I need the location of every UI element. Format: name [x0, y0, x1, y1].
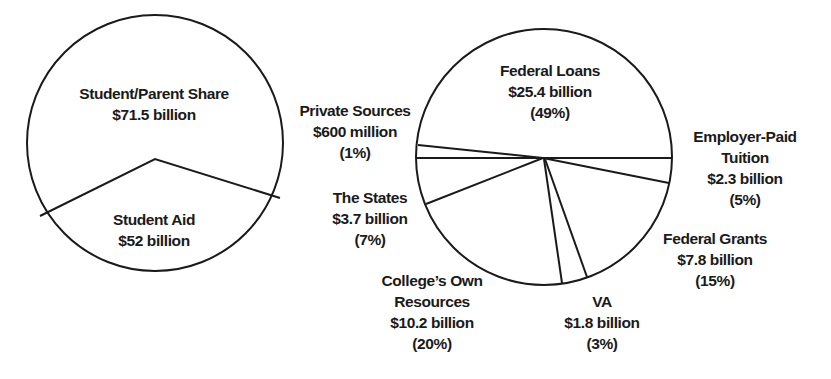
- label-line: Employer-Paid: [680, 126, 810, 147]
- label-line: Federal Grants: [650, 228, 780, 249]
- label-percent: (20%): [367, 333, 497, 354]
- label-value: $2.3 billion: [680, 168, 810, 189]
- label-student-aid: Student Aid $52 billion: [104, 209, 204, 251]
- label-line: Federal Loans: [480, 60, 620, 81]
- label-line: Student/Parent Share: [54, 83, 254, 104]
- label-va: VA $1.8 billion (3%): [552, 291, 652, 354]
- label-federal-loans: Federal Loans $25.4 billion (49%): [480, 60, 620, 123]
- label-the-states: The States $3.7 billion (7%): [320, 187, 420, 250]
- label-value: $71.5 billion: [54, 104, 254, 125]
- label-percent: (7%): [320, 229, 420, 250]
- label-employer-paid-tuition: Employer-Paid Tuition $2.3 billion (5%): [680, 126, 810, 210]
- label-percent: (1%): [290, 142, 420, 163]
- label-percent: (49%): [480, 102, 620, 123]
- label-student-parent-share: Student/Parent Share $71.5 billion: [54, 83, 254, 125]
- label-line: Resources: [367, 291, 497, 312]
- label-line: Student Aid: [104, 209, 204, 230]
- label-percent: (5%): [680, 189, 810, 210]
- label-federal-grants: Federal Grants $7.8 billion (15%): [650, 228, 780, 291]
- label-value: $10.2 billion: [367, 312, 497, 333]
- label-line: Private Sources: [290, 100, 420, 121]
- label-value: $7.8 billion: [650, 249, 780, 270]
- label-value: $600 million: [290, 121, 420, 142]
- label-colleges-own-resources: College’s Own Resources $10.2 billion (2…: [367, 270, 497, 354]
- label-line: VA: [552, 291, 652, 312]
- label-private-sources: Private Sources $600 million (1%): [290, 100, 420, 163]
- label-percent: (15%): [650, 270, 780, 291]
- label-line: Tuition: [680, 147, 810, 168]
- label-value: $1.8 billion: [552, 312, 652, 333]
- label-line: The States: [320, 187, 420, 208]
- label-value: $52 billion: [104, 230, 204, 251]
- label-percent: (3%): [552, 333, 652, 354]
- label-value: $3.7 billion: [320, 208, 420, 229]
- label-value: $25.4 billion: [480, 81, 620, 102]
- label-line: College’s Own: [367, 270, 497, 291]
